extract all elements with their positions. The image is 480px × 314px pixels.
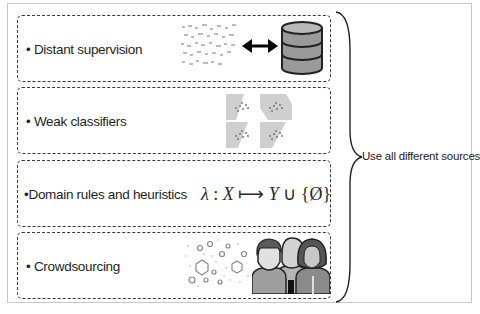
- formula-lambda: λ: [201, 184, 209, 204]
- classifier-plots-icon: [226, 94, 292, 148]
- label-domain-rules: •Domain rules and heuristics: [24, 186, 187, 201]
- people-icon: [252, 234, 330, 294]
- formula-y: Y: [269, 184, 279, 204]
- label-weak-classifiers: • Weak classifiers: [26, 113, 126, 128]
- formula-union: ∪: [279, 184, 301, 204]
- curly-brace: [334, 10, 364, 304]
- formula-empty-set: {Ø}: [301, 184, 331, 204]
- box-domain-rules: •Domain rules and heuristics λ : X ⟼ Y ∪…: [17, 160, 331, 227]
- database-icon: [280, 20, 324, 76]
- scattered-text-icon: [180, 22, 240, 72]
- label-distant-supervision: • Distant supervision: [26, 41, 142, 56]
- network-icon: [182, 236, 252, 292]
- brace-label: Use all different sources: [362, 150, 480, 162]
- label-crowdsourcing: • Crowdsourcing: [26, 258, 120, 273]
- formula-arrow: ⟼: [234, 184, 269, 204]
- double-arrow-icon: [242, 38, 278, 54]
- formula-x: X: [223, 184, 234, 204]
- formula-colon: :: [209, 184, 223, 204]
- labeling-function-formula: λ : X ⟼ Y ∪ {Ø}: [201, 183, 331, 205]
